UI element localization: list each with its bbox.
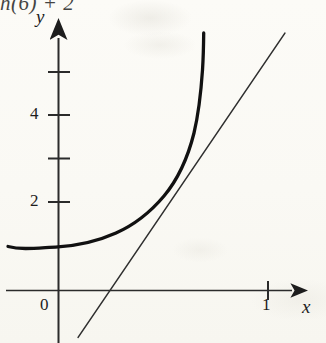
tangent-line [78,33,285,338]
figure-root: h(6) + 2 y x 0 1 2 4 [0,0,326,343]
y-tick-label-2: 2 [30,191,39,211]
graph-canvas [0,0,326,343]
exponential-curve [8,33,204,248]
y-axis-label: y [36,6,44,28]
x-axis-label: x [302,296,310,318]
y-tick-label-4: 4 [30,104,39,124]
origin-label: 0 [40,295,49,315]
x-tick-label-1: 1 [262,295,271,315]
